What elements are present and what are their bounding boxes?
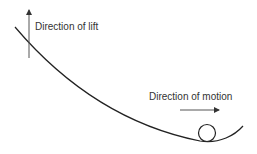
diagram-canvas: Direction of lift Direction of motion bbox=[0, 0, 257, 154]
motion-label: Direction of motion bbox=[149, 91, 232, 102]
lift-label: Direction of lift bbox=[35, 21, 98, 32]
ball-circle bbox=[199, 125, 216, 142]
